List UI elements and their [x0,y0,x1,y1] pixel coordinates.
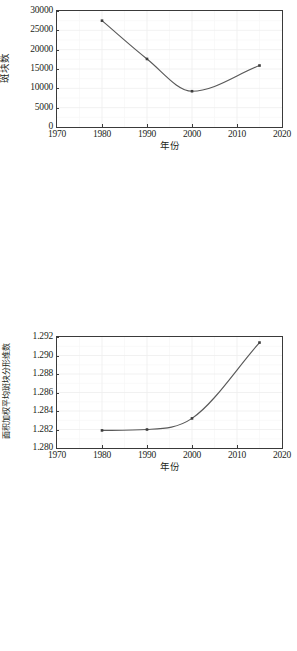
chart-1-y-tick-mark [56,50,59,51]
chart-1-series [57,11,282,127]
chart-1-x-axis-label: 年份 [56,142,283,152]
chart-1-y-tick-label: 0 [3,122,53,132]
chart-1-y-tick-mark [56,30,59,31]
chart-1-y-tick-mark [56,69,59,70]
chart-panel-4: 聚集度指数 98.7598.8098.8598.9098.9599.0099.0… [0,489,297,651]
chart-1-y-tick-mark [56,88,59,89]
chart-panel-3: 最大斑块指数 8284868890929496 1970198019902000… [0,325,297,489]
chart-1-x-tick-label: 1990 [138,130,156,140]
chart-1-y-tick-label: 20000 [3,45,53,55]
chart-1-x-tick-label: 2000 [183,130,201,140]
chart-1-x-tick-mark [237,124,238,127]
chart-1-y-tick-label: 25000 [3,26,53,36]
chart-1-x-tick-mark [192,124,193,127]
chart-1-y-tick-label: 15000 [3,64,53,74]
chart-panel-2: 面积加权平均斑块分形维数 1.2801.2821.2841.2861.2881.… [0,164,297,325]
multi-panel-figure: 斑块数 050001000015000200002500030000 19701… [0,0,297,651]
chart-1-x-tick-label: 2020 [273,130,291,140]
chart-1-y-tick-mark [56,108,59,109]
chart-1-y-tick-mark [56,127,59,128]
chart-1-plot-area [56,10,283,128]
chart-1-x-tick-label: 1980 [93,130,111,140]
chart-1-x-tick-mark [102,124,103,127]
chart-panel-1: 斑块数 050001000015000200002500030000 19701… [0,0,297,164]
chart-1-y-tick-mark [56,11,59,12]
chart-1-x-tick-label: 1970 [48,130,66,140]
chart-1-x-tick-mark [147,124,148,127]
chart-1-x-tick-label: 2010 [228,130,246,140]
chart-1-y-tick-label: 5000 [3,103,53,113]
chart-1-y-tick-label: 30000 [3,6,53,16]
chart-1-y-tick-label: 10000 [3,84,53,94]
